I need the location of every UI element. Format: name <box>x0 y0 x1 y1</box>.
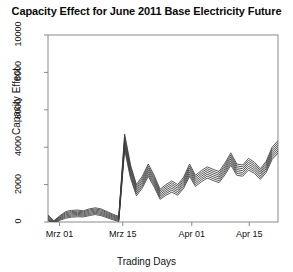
chart-figure: Capacity Effect for June 2011 Base Elect… <box>0 0 293 272</box>
x-axis-label: Trading Days <box>0 256 293 267</box>
chart-title: Capacity Effect for June 2011 Base Elect… <box>0 5 293 17</box>
series-line <box>48 145 278 223</box>
y-tick-label: 2000 <box>13 162 23 206</box>
series-line <box>48 137 278 222</box>
x-tick-label: Mrz 15 <box>93 229 153 239</box>
series-group <box>48 134 278 224</box>
y-tick-label: 10000 <box>13 12 23 56</box>
x-tick-label: Apr 15 <box>219 229 279 239</box>
y-tick-label: 6000 <box>13 87 23 131</box>
x-tick-label: Apr 01 <box>162 229 222 239</box>
x-tick-label: Mrz 01 <box>30 229 90 239</box>
series-line <box>48 134 278 221</box>
series-line <box>48 139 278 221</box>
